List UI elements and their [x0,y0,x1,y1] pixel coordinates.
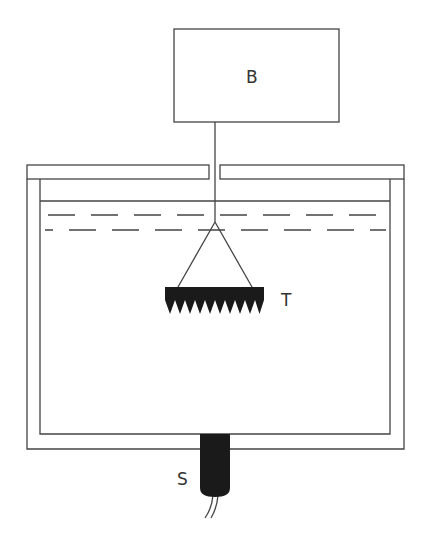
sensor-s [200,434,230,497]
lid-right [220,165,404,179]
label-s: S [177,469,188,489]
label-b: B [246,67,258,87]
lid-left [27,165,209,179]
hanger-wires [178,222,252,287]
apparatus-diagram: B T S [0,0,424,543]
tool-teeth [165,300,264,314]
label-t: T [280,290,292,310]
tool-t [165,287,264,314]
sensor-cable [205,495,218,518]
